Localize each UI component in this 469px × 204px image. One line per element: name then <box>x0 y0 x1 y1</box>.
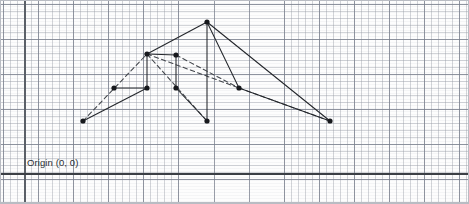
graph-node <box>173 85 178 90</box>
graph-node <box>204 19 209 24</box>
solid-edge <box>147 22 207 54</box>
solid-edge <box>207 22 330 121</box>
graph-node <box>204 118 209 123</box>
graph-node <box>327 118 332 123</box>
solid-edge <box>176 88 207 121</box>
graph-node <box>144 51 149 56</box>
graph-node <box>111 85 116 90</box>
solid-edge <box>147 54 176 55</box>
graph-node <box>173 52 178 57</box>
solid-edge <box>239 88 330 121</box>
diagram-canvas: Origin (0, 0) <box>0 0 469 204</box>
graph-node <box>236 85 241 90</box>
node-link-diagram <box>0 0 469 204</box>
graph-node <box>144 85 149 90</box>
solid-edge-group <box>83 22 330 121</box>
solid-edge <box>83 88 147 121</box>
graph-node <box>80 118 85 123</box>
